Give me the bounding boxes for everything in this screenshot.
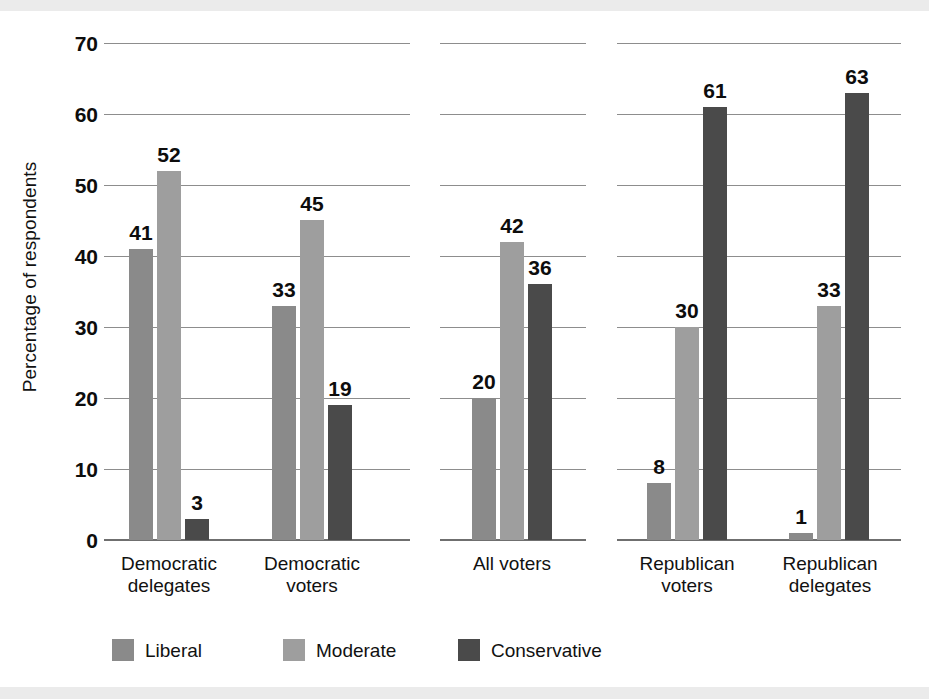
- bar-value: 1: [795, 506, 807, 527]
- panel-republican: 8 30 61 1 33 63 Republican voters Re: [617, 0, 901, 541]
- bar-value: 45: [300, 193, 323, 214]
- bar-value: 61: [703, 80, 726, 101]
- group-label-republican-voters: Republican voters: [617, 553, 757, 597]
- bar-value: 41: [129, 222, 152, 243]
- bar-democratic-voters-conservative[interactable]: 19: [328, 405, 352, 540]
- group-label-line2: voters: [242, 575, 382, 597]
- legend-item-conservative[interactable]: Conservative: [458, 639, 602, 661]
- bar-republican-delegates-moderate[interactable]: 33: [817, 306, 841, 540]
- bar-republican-delegates-liberal[interactable]: 1: [789, 533, 813, 540]
- panel-democratic: 41 52 3 33 45 19 Democratic delegates: [104, 0, 410, 541]
- group-label-line2: voters: [617, 575, 757, 597]
- legend-item-moderate[interactable]: Moderate: [283, 639, 396, 661]
- y-tick-20: 20: [62, 388, 98, 409]
- y-tick-60: 60: [62, 104, 98, 125]
- bar-value: 63: [845, 66, 868, 87]
- bar-value: 33: [817, 279, 840, 300]
- bar-value: 52: [157, 144, 180, 165]
- bar-republican-voters-conservative[interactable]: 61: [703, 107, 727, 540]
- y-tick-40: 40: [62, 246, 98, 267]
- bar-value: 20: [472, 371, 495, 392]
- bar-value: 42: [500, 215, 523, 236]
- group-label-line1: Republican: [639, 553, 734, 574]
- bar-democratic-voters-moderate[interactable]: 45: [300, 220, 324, 540]
- y-tick-50: 50: [62, 175, 98, 196]
- group-label-line1: Democratic: [264, 553, 360, 574]
- group-label-all-voters: All voters: [442, 553, 582, 575]
- bar-democratic-delegates-conservative[interactable]: 3: [185, 519, 209, 540]
- panel-all-voters: 20 42 36 All voters: [440, 0, 586, 541]
- y-tick-70: 70: [62, 33, 98, 54]
- group-label-line2: delegates: [760, 575, 900, 597]
- bar-all-voters-conservative[interactable]: 36: [528, 284, 552, 540]
- bar-all-voters-moderate[interactable]: 42: [500, 242, 524, 540]
- group-label-democratic-voters: Democratic voters: [242, 553, 382, 597]
- panel-2-bars: 20 42 36: [440, 0, 586, 540]
- bar-democratic-voters-liberal[interactable]: 33: [272, 306, 296, 540]
- group-label-line1: All voters: [473, 553, 551, 574]
- group-label-democratic-delegates: Democratic delegates: [99, 553, 239, 597]
- group-label-line1: Republican: [782, 553, 877, 574]
- bar-democratic-delegates-liberal[interactable]: 41: [129, 249, 153, 540]
- bar-republican-voters-liberal[interactable]: 8: [647, 483, 671, 540]
- legend-label-liberal: Liberal: [145, 641, 202, 660]
- bar-republican-voters-moderate[interactable]: 30: [675, 327, 699, 540]
- bar-value: 33: [272, 279, 295, 300]
- y-axis-title: Percentage of respondents: [19, 97, 41, 457]
- legend-item-liberal[interactable]: Liberal: [112, 639, 202, 661]
- legend-label-moderate: Moderate: [316, 641, 396, 660]
- bar-value: 8: [653, 456, 665, 477]
- bar-value: 19: [328, 378, 351, 399]
- y-tick-10: 10: [62, 459, 98, 480]
- y-tick-30: 30: [62, 317, 98, 338]
- legend-swatch-liberal-icon: [112, 639, 134, 661]
- group-label-line2: delegates: [99, 575, 239, 597]
- y-tick-0: 0: [62, 530, 98, 551]
- legend-swatch-moderate-icon: [283, 639, 305, 661]
- bar-democratic-delegates-moderate[interactable]: 52: [157, 171, 181, 540]
- bar-value: 36: [528, 257, 551, 278]
- group-label-line1: Democratic: [121, 553, 217, 574]
- legend-label-conservative: Conservative: [491, 641, 602, 660]
- bar-value: 30: [675, 300, 698, 321]
- panel-3-bars: 8 30 61 1 33 63: [617, 0, 901, 540]
- legend-swatch-conservative-icon: [458, 639, 480, 661]
- bar-republican-delegates-conservative[interactable]: 63: [845, 93, 869, 540]
- bottom-edge-band: [0, 687, 929, 699]
- group-label-republican-delegates: Republican delegates: [760, 553, 900, 597]
- bar-chart: Percentage of respondents 70 60 50 40 30…: [0, 0, 929, 699]
- bar-all-voters-liberal[interactable]: 20: [472, 398, 496, 540]
- bar-value: 3: [191, 492, 203, 513]
- panel-1-bars: 41 52 3 33 45 19: [104, 0, 410, 540]
- chart-legend: Liberal Moderate Conservative: [0, 636, 929, 666]
